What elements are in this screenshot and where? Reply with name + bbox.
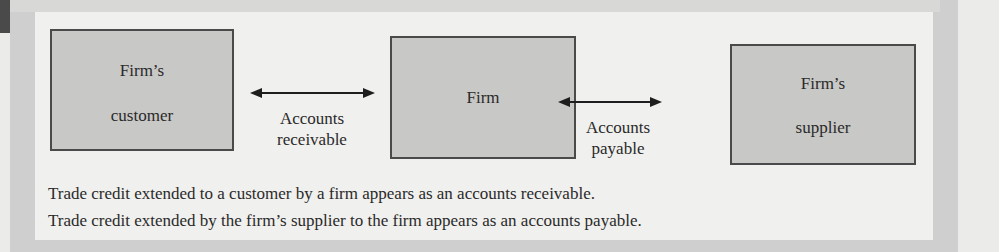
node-label-line1: Firm (392, 88, 574, 108)
figure-frame-top (10, 0, 940, 12)
node-label-line2: customer (52, 106, 232, 126)
node-label-line1: Firm’s (52, 61, 232, 81)
caption-receivable: Trade credit extended to a customer by a… (48, 184, 595, 204)
node-firm: Firm (390, 36, 576, 159)
caption-payable: Trade credit extended by the firm’s supp… (48, 211, 642, 231)
edge-label-line1: Accounts (262, 108, 362, 129)
edge-label-line2: payable (568, 138, 668, 159)
double-arrow-icon (558, 95, 662, 109)
page-edge-tab (0, 0, 10, 33)
node-label-line2: supplier (732, 118, 914, 138)
edge-label-line2: receivable (262, 129, 362, 150)
double-arrow-icon (250, 86, 375, 100)
edge-label-accounts-payable: Accounts payable (568, 117, 668, 159)
edge-label-line1: Accounts (568, 117, 668, 138)
node-firms-supplier: Firm’s supplier (730, 44, 916, 165)
node-label-line1: Firm’s (732, 74, 914, 94)
edge-label-accounts-receivable: Accounts receivable (262, 108, 362, 150)
node-firms-customer: Firm’s customer (50, 29, 234, 151)
